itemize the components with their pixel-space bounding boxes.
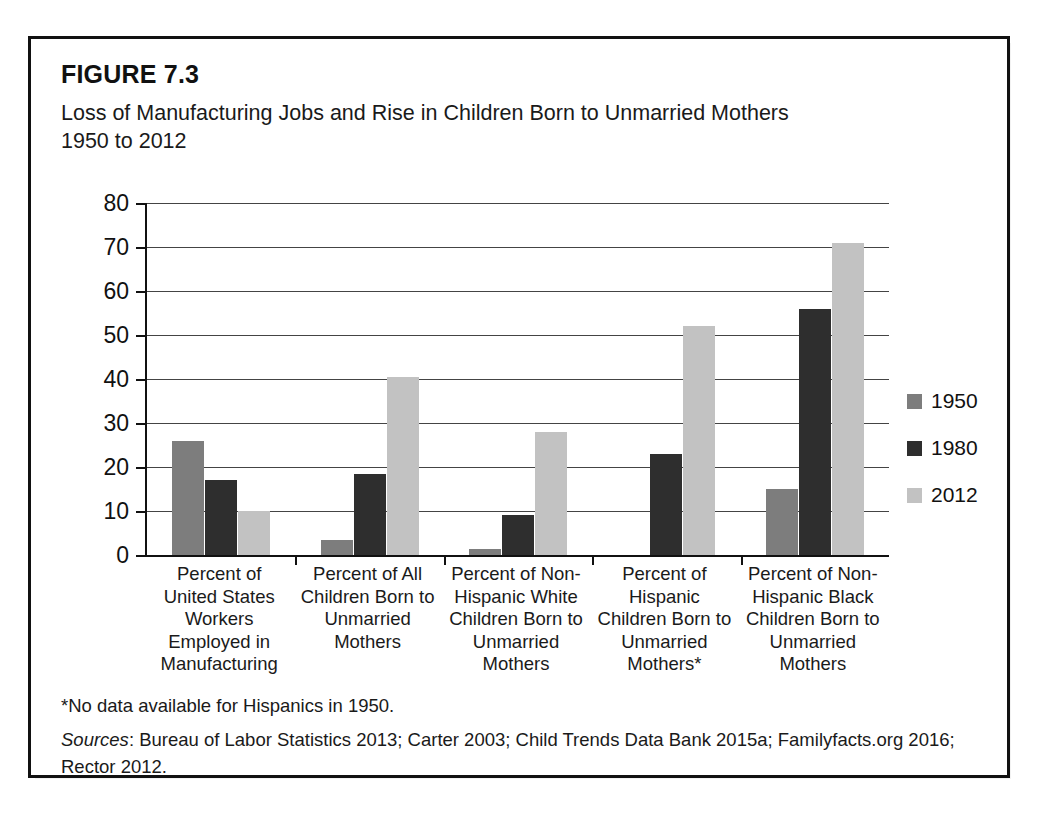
bar-chart: 01020304050607080 Percent ofUnited State…	[61, 189, 987, 667]
legend-item-2012[interactable]: 2012	[907, 483, 1027, 507]
category-label-line: Mothers	[293, 631, 441, 654]
y-axis-tick-label: 40	[83, 366, 129, 393]
category-label-line: Unmarried	[590, 631, 738, 654]
legend-label: 2012	[931, 483, 978, 507]
figure-notes: *No data available for Hispanics in 1950…	[61, 693, 961, 780]
y-axis-tick-label: 30	[83, 410, 129, 437]
legend-item-1980[interactable]: 1980	[907, 436, 1027, 460]
legend-label: 1950	[931, 389, 978, 413]
category-label-line: United States	[145, 586, 293, 609]
category-label-line: Mothers	[739, 653, 887, 676]
bar-1980[interactable]	[502, 515, 534, 555]
bar-1980[interactable]	[650, 454, 682, 555]
category-label-line: Hispanic	[590, 586, 738, 609]
sources-text: : Bureau of Labor Statistics 2013; Carte…	[61, 729, 955, 776]
category-label-line: Percent of Non-	[442, 563, 590, 586]
y-axis-tick	[136, 511, 147, 513]
plot-frame: 01020304050607080	[145, 203, 889, 557]
legend-swatch-icon	[907, 488, 922, 503]
category-label: Percent ofUnited StatesWorkersEmployed i…	[145, 563, 293, 676]
y-axis-tick-label: 70	[83, 234, 129, 261]
category-label-line: Employed in	[145, 631, 293, 654]
category-label-line: Children Born to	[590, 608, 738, 631]
category-label-line: Mothers*	[590, 653, 738, 676]
y-axis-tick-label: 80	[83, 190, 129, 217]
chart-legend: 195019802012	[907, 389, 1027, 530]
category-label-line: Unmarried	[293, 608, 441, 631]
category-label: Percent of AllChildren Born toUnmarriedM…	[293, 563, 441, 653]
y-axis-tick-label: 60	[83, 278, 129, 305]
category-label: Percent ofHispanicChildren Born toUnmarr…	[590, 563, 738, 676]
category-label-line: Children Born to	[293, 586, 441, 609]
bar-2012[interactable]	[238, 511, 270, 555]
bar-2012[interactable]	[683, 326, 715, 555]
figure-label: FIGURE 7.3	[61, 61, 983, 89]
figure-box: FIGURE 7.3 Loss of Manufacturing Jobs an…	[28, 36, 1010, 778]
bar-1980[interactable]	[799, 309, 831, 555]
sources-keyword: Sources	[61, 729, 129, 750]
figure-title-line-2: 1950 to 2012	[61, 127, 931, 155]
bar-2012[interactable]	[387, 377, 419, 555]
category-label-line: Children Born to	[739, 608, 887, 631]
y-axis-tick-label: 20	[83, 454, 129, 481]
bar-1950[interactable]	[469, 549, 501, 555]
legend-item-1950[interactable]: 1950	[907, 389, 1027, 413]
category-label-line: Percent of	[590, 563, 738, 586]
category-label-line: Mothers	[442, 653, 590, 676]
category-label-line: Percent of Non-	[739, 563, 887, 586]
category-label: Percent of Non-Hispanic WhiteChildren Bo…	[442, 563, 590, 676]
y-axis-tick-label: 0	[83, 542, 129, 569]
bar-1950[interactable]	[321, 540, 353, 555]
y-axis-tick	[136, 555, 147, 557]
category-axis-labels: Percent ofUnited StatesWorkersEmployed i…	[145, 563, 887, 667]
y-axis-tick-label: 50	[83, 322, 129, 349]
legend-swatch-icon	[907, 441, 922, 456]
y-axis-tick	[136, 247, 147, 249]
y-axis-tick	[136, 203, 147, 205]
category-label-line: Hispanic White	[442, 586, 590, 609]
figure-sources: Sources: Bureau of Labor Statistics 2013…	[61, 727, 961, 780]
bar-2012[interactable]	[535, 432, 567, 555]
bar-1950[interactable]	[766, 489, 798, 555]
bar-group	[295, 203, 443, 555]
legend-label: 1980	[931, 436, 978, 460]
y-axis-tick	[136, 291, 147, 293]
category-label-line: Percent of All	[293, 563, 441, 586]
category-label-line: Workers	[145, 608, 293, 631]
bar-2012[interactable]	[832, 243, 864, 555]
category-label-line: Percent of	[145, 563, 293, 586]
figure-title-line-1: Loss of Manufacturing Jobs and Rise in C…	[61, 99, 931, 127]
bar-1980[interactable]	[205, 480, 237, 555]
bar-group	[741, 203, 889, 555]
bar-group	[444, 203, 592, 555]
bar-group	[592, 203, 740, 555]
y-axis-tick	[136, 423, 147, 425]
bar-1980[interactable]	[354, 474, 386, 555]
y-axis-tick-label: 10	[83, 498, 129, 525]
figure-title: Loss of Manufacturing Jobs and Rise in C…	[61, 99, 931, 156]
y-axis-tick	[136, 467, 147, 469]
category-label-line: Unmarried	[739, 631, 887, 654]
figure-footnote: *No data available for Hispanics in 1950…	[61, 693, 961, 719]
category-label: Percent of Non-Hispanic BlackChildren Bo…	[739, 563, 887, 676]
bar-1950[interactable]	[172, 441, 204, 555]
y-axis-tick	[136, 335, 147, 337]
figure-content: FIGURE 7.3 Loss of Manufacturing Jobs an…	[61, 61, 983, 761]
legend-swatch-icon	[907, 394, 922, 409]
category-label-line: Children Born to	[442, 608, 590, 631]
category-label-line: Unmarried	[442, 631, 590, 654]
bar-group	[147, 203, 295, 555]
y-axis-tick	[136, 379, 147, 381]
category-label-line: Manufacturing	[145, 653, 293, 676]
category-label-line: Hispanic Black	[739, 586, 887, 609]
